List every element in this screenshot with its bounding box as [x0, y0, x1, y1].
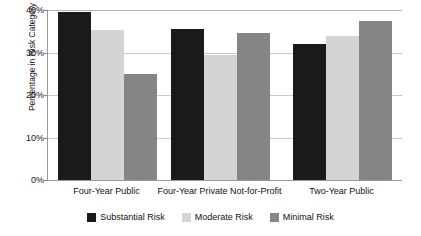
bar[interactable] — [293, 44, 326, 180]
legend-item[interactable]: Substantial Risk — [87, 212, 165, 222]
legend-swatch-icon — [182, 213, 191, 222]
bar[interactable] — [124, 74, 157, 180]
bar-group — [58, 10, 157, 180]
bar[interactable] — [171, 29, 204, 180]
y-axis-tick-labels: 0%10%20%30%40% — [14, 0, 44, 190]
bar[interactable] — [91, 30, 124, 180]
y-axis-tick-label: 0% — [31, 175, 44, 185]
x-axis-tick-label: Two-Year Public — [309, 186, 374, 196]
bar-group — [171, 10, 270, 180]
y-axis-tick-label: 30% — [26, 48, 44, 58]
legend-swatch-icon — [87, 213, 96, 222]
x-axis-tick-labels: Four-Year PublicFour-Year Private Not-fo… — [47, 186, 401, 202]
y-axis-tick-label: 20% — [26, 90, 44, 100]
legend-item[interactable]: Moderate Risk — [182, 212, 253, 222]
legend-label: Substantial Risk — [100, 212, 165, 222]
legend-item[interactable]: Minimal Risk — [270, 212, 334, 222]
bar[interactable] — [326, 36, 359, 181]
x-axis-tick-label: Four-Year Private Not-for-Profit — [157, 186, 281, 196]
y-axis-tick-label: 10% — [26, 133, 44, 143]
bar[interactable] — [359, 21, 392, 180]
y-axis-tick-label: 40% — [26, 5, 44, 15]
chart-legend: Substantial RiskModerate RiskMinimal Ris… — [0, 212, 421, 222]
legend-label: Moderate Risk — [195, 212, 253, 222]
bar-chart: Percentage in Risk Category 0%10%20%30%4… — [0, 0, 421, 236]
bar[interactable] — [237, 33, 270, 180]
y-axis-tick-mark — [44, 180, 48, 181]
x-axis-tick-label: Four-Year Public — [73, 186, 140, 196]
bar-groups — [48, 10, 402, 180]
bar[interactable] — [204, 55, 237, 180]
plot-area — [47, 10, 402, 181]
bar[interactable] — [58, 12, 91, 180]
legend-swatch-icon — [270, 213, 279, 222]
legend-label: Minimal Risk — [283, 212, 334, 222]
bar-group — [293, 10, 392, 180]
